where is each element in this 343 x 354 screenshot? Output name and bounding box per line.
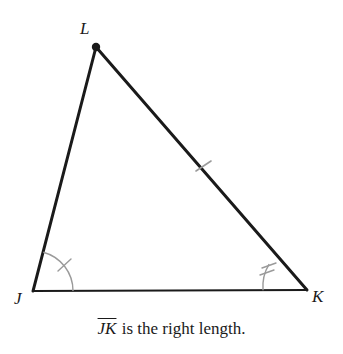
triangle-diagram [0,0,343,354]
geometry-figure: L J K JK is the right length. [0,0,343,354]
caption-segment-name: JK [98,319,118,338]
figure-caption: JK is the right length. [0,318,343,339]
side-lk [96,47,307,290]
caption-text: is the right length. [117,319,245,338]
vertex-label-j: J [14,290,22,307]
vertex-label-l: L [80,20,89,37]
side-jl [33,47,96,291]
side-jk [33,290,307,291]
vertex-dot-l [92,43,100,51]
angle-arc-k-tick-mark-1 [260,270,274,275]
angle-arc-k-tick-mark-2 [262,263,276,268]
vertex-label-k: K [312,288,323,305]
